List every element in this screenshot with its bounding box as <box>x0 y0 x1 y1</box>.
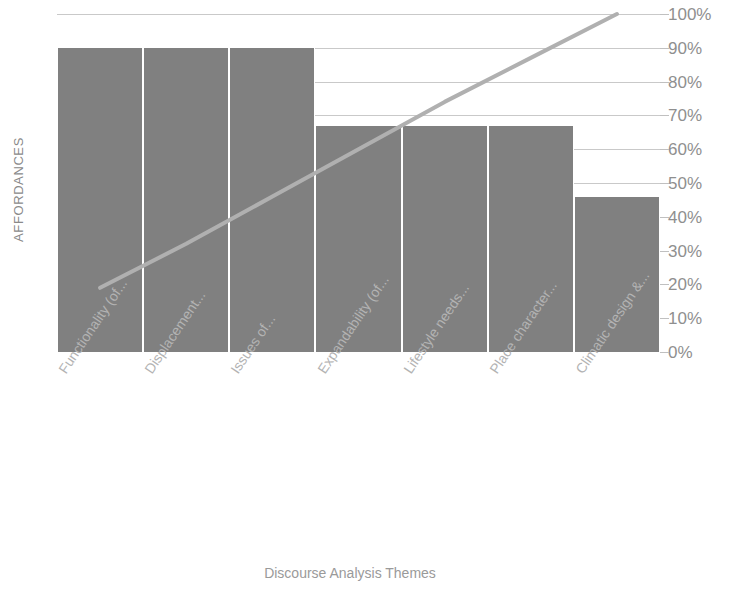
gridline-90 <box>315 48 660 49</box>
y-tick-label: 10% <box>668 310 702 327</box>
y-tick-label: 100% <box>668 6 711 23</box>
y-tick-mark <box>660 48 669 49</box>
y-tick-mark <box>660 284 669 285</box>
y-tick-mark <box>660 149 669 150</box>
y-tick-label: 80% <box>668 74 702 91</box>
y-tick-label: 0% <box>668 344 693 361</box>
gridline-50 <box>574 183 660 184</box>
y-tick-mark <box>660 14 669 15</box>
y-axis-title: AFFORDANCES <box>11 110 26 270</box>
y-tick-mark <box>660 82 669 83</box>
y-tick-label: 30% <box>668 243 702 260</box>
gridline-70 <box>315 115 660 116</box>
bar[interactable] <box>229 48 315 352</box>
pareto-chart: AFFORDANCES 0%10%20%30%40%50%60%70%80%90… <box>0 0 736 596</box>
y-tick-label: 90% <box>668 40 702 57</box>
y-tick-label: 20% <box>668 276 702 293</box>
y-tick-label: 70% <box>668 107 702 124</box>
y-tick-mark <box>660 251 669 252</box>
y-tick-mark <box>660 352 669 353</box>
y-tick-label: 40% <box>668 209 702 226</box>
x-axis-title: Discourse Analysis Themes <box>0 565 700 581</box>
y-axis-tick-labels: 0%10%20%30%40%50%60%70%80%90%100% <box>668 0 734 370</box>
y-tick-label: 60% <box>668 141 702 158</box>
gridline-80 <box>315 82 660 83</box>
y-tick-mark <box>660 217 669 218</box>
x-axis-tick-labels: Functionality (of...Displacement...Issue… <box>0 360 736 560</box>
y-tick-mark <box>660 115 669 116</box>
gridline-60 <box>574 149 660 150</box>
gridline-100 <box>57 14 660 15</box>
y-tick-label: 50% <box>668 175 702 192</box>
y-tick-mark <box>660 183 669 184</box>
y-tick-mark <box>660 318 669 319</box>
